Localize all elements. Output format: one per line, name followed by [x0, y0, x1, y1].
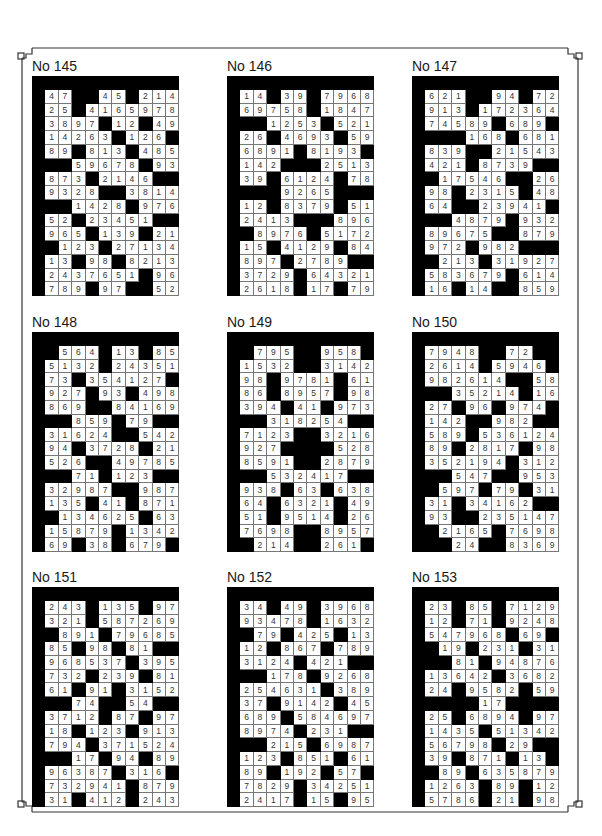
digit-cell: 4 — [72, 738, 85, 752]
black-cell — [126, 200, 139, 214]
digit-cell: 2 — [126, 470, 139, 484]
black-cell — [227, 780, 240, 794]
digit-cell: 8 — [281, 525, 294, 539]
digit-cell: 6 — [439, 360, 452, 374]
digit-cell: 9 — [439, 346, 452, 360]
digit-cell: 1 — [45, 497, 58, 511]
black-cell — [425, 525, 438, 539]
black-cell — [361, 186, 374, 200]
black-cell — [72, 538, 85, 552]
black-cell — [59, 415, 72, 429]
digit-cell: 7 — [254, 269, 267, 283]
digit-cell: 1 — [452, 159, 465, 173]
black-cell — [32, 131, 45, 145]
black-cell — [281, 628, 294, 642]
digit-cell: 4 — [267, 401, 280, 415]
digit-cell: 3 — [86, 442, 99, 456]
black-cell — [267, 601, 280, 615]
digit-cell: 7 — [348, 456, 361, 470]
digit-cell: 7 — [59, 90, 72, 104]
digit-cell: 3 — [348, 483, 361, 497]
digit-cell: 1 — [126, 131, 139, 145]
black-cell — [321, 76, 334, 90]
digit-cell: 3 — [126, 766, 139, 780]
black-cell — [227, 656, 240, 670]
digit-cell: 9 — [492, 269, 505, 283]
digit-cell: 8 — [45, 642, 58, 656]
black-cell — [126, 497, 139, 511]
digit-cell: 2 — [59, 483, 72, 497]
digit-cell: 9 — [439, 442, 452, 456]
digit-cell: 1 — [139, 642, 152, 656]
black-cell — [452, 401, 465, 415]
black-cell — [254, 470, 267, 484]
digit-cell: 3 — [466, 255, 479, 269]
black-cell — [166, 538, 179, 552]
black-cell — [412, 456, 425, 470]
digit-cell: 3 — [59, 780, 72, 794]
black-cell — [227, 470, 240, 484]
digit-cell: 1 — [267, 670, 280, 684]
black-cell — [452, 752, 465, 766]
digit-cell: 6 — [307, 269, 320, 283]
digit-cell: 8 — [126, 255, 139, 269]
black-cell — [425, 483, 438, 497]
digit-cell: 5 — [45, 214, 58, 228]
digit-cell: 2 — [321, 538, 334, 552]
black-cell — [227, 670, 240, 684]
black-cell — [361, 538, 374, 552]
digit-cell: 7 — [321, 282, 334, 296]
digit-cell: 9 — [112, 752, 125, 766]
digit-cell: 8 — [126, 442, 139, 456]
digit-cell: 9 — [492, 214, 505, 228]
black-cell — [240, 76, 253, 90]
digit-cell: 4 — [348, 360, 361, 374]
digit-cell: 2 — [479, 387, 492, 401]
digit-cell: 3 — [99, 214, 112, 228]
digit-cell: 1 — [307, 511, 320, 525]
digit-cell: 6 — [99, 159, 112, 173]
puzzle-153: No 1532385712912719248547968691923131819… — [412, 569, 572, 807]
digit-cell: 1 — [546, 483, 559, 497]
digit-cell: 8 — [452, 793, 465, 807]
digit-cell: 1 — [361, 117, 374, 131]
black-cell — [112, 587, 125, 601]
digit-cell: 2 — [533, 172, 546, 186]
digit-cell: 3 — [452, 269, 465, 283]
digit-cell: 8 — [99, 255, 112, 269]
digit-cell: 8 — [112, 401, 125, 415]
digit-cell: 7 — [321, 387, 334, 401]
digit-cell: 8 — [546, 615, 559, 629]
digit-cell: 3 — [452, 725, 465, 739]
black-cell — [153, 642, 166, 656]
digit-cell: 6 — [72, 346, 85, 360]
digit-cell: 2 — [267, 269, 280, 283]
digit-cell: 2 — [59, 214, 72, 228]
digit-cell: 7 — [452, 738, 465, 752]
digit-cell: 1 — [112, 117, 125, 131]
digit-cell: 8 — [466, 752, 479, 766]
digit-cell: 9 — [348, 214, 361, 228]
digit-cell: 7 — [72, 470, 85, 484]
digit-cell: 2 — [72, 186, 85, 200]
black-cell — [126, 387, 139, 401]
black-cell — [412, 428, 425, 442]
digit-cell: 1 — [348, 159, 361, 173]
digit-cell: 1 — [294, 241, 307, 255]
digit-cell: 8 — [546, 186, 559, 200]
black-cell — [32, 738, 45, 752]
black-cell — [361, 766, 374, 780]
digit-cell: 4 — [533, 186, 546, 200]
black-cell — [466, 145, 479, 159]
digit-cell: 1 — [254, 511, 267, 525]
black-cell — [139, 442, 152, 456]
black-cell — [412, 601, 425, 615]
digit-cell: 3 — [99, 131, 112, 145]
digit-cell: 4 — [439, 117, 452, 131]
digit-cell: 1 — [439, 642, 452, 656]
black-cell — [32, 159, 45, 173]
digit-cell: 7 — [466, 483, 479, 497]
digit-cell: 9 — [59, 738, 72, 752]
digit-cell: 1 — [361, 269, 374, 283]
digit-cell: 8 — [439, 428, 452, 442]
